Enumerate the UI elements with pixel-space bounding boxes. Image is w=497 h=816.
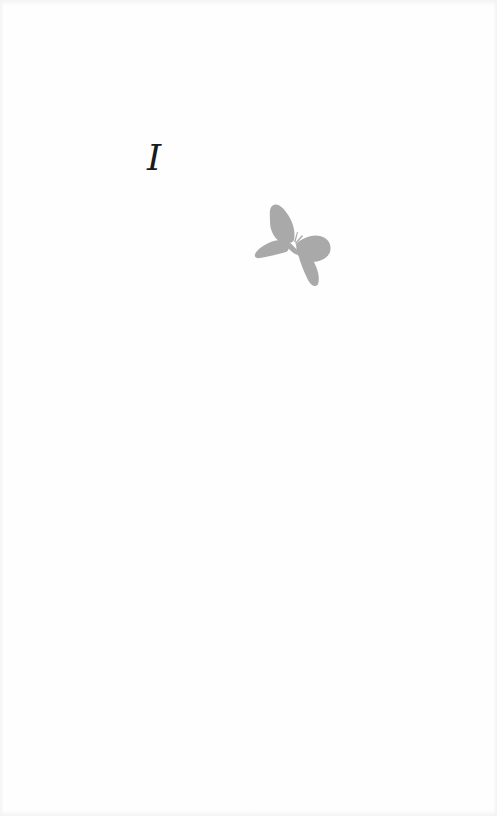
page-edge-bottom — [0, 810, 497, 816]
page-edge-top — [0, 0, 497, 6]
chapter-numeral: I — [147, 138, 161, 178]
butterfly-icon — [250, 200, 336, 292]
page-edge-left — [0, 0, 4, 816]
book-page: I — [0, 0, 497, 816]
page-edge-right — [493, 0, 497, 816]
